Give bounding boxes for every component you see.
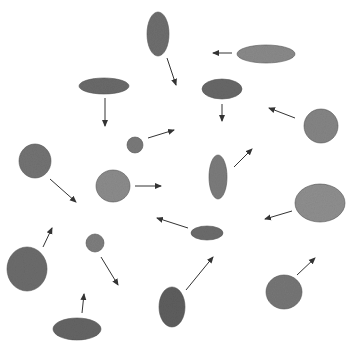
motion-diagram [0,0,355,348]
motion-arrow-icon-15 [297,258,315,275]
ellipse-shape-16 [53,318,101,340]
diagram-canvas [0,0,355,348]
circle-shape-6 [304,109,338,143]
motion-arrow-icon-16 [82,294,84,313]
ellipse-shape-10 [295,184,345,222]
ellipse-shape-4 [202,79,242,99]
ellipse-shape-14 [159,287,185,327]
motion-arrow-icon-7 [50,179,76,202]
arrows-layer [43,53,315,313]
ellipse-shape-15 [266,275,302,309]
motion-arrow-icon-13 [43,228,52,247]
ellipse-shape-13 [7,247,47,291]
ellipse-shape-11 [191,226,223,240]
circle-shape-12 [86,234,104,252]
ellipse-shape-7 [19,144,51,178]
motion-arrow-icon-5 [148,130,174,138]
ellipse-shape-1 [147,12,169,56]
motion-arrow-icon-6 [269,108,295,118]
motion-arrow-icon-9 [234,149,252,167]
ellipse-shape-3 [79,78,129,94]
motion-arrow-icon-11 [157,218,188,228]
motion-arrow-icon-12 [101,257,118,285]
motion-arrow-icon-1 [167,58,176,85]
ellipse-shape-2 [237,45,295,63]
ellipse-shape-9 [209,155,227,199]
motion-arrow-icon-10 [265,211,292,219]
shapes-layer [7,12,345,340]
ellipse-shape-8 [96,170,130,202]
motion-arrow-icon-14 [186,257,213,290]
circle-shape-5 [127,137,143,153]
